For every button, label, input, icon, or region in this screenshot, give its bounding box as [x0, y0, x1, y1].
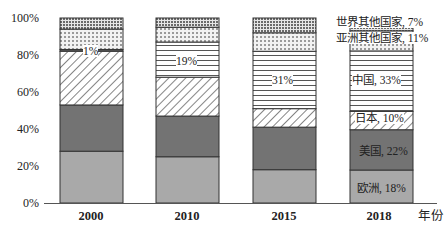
bar-2010 [156, 18, 219, 203]
label-2018-europe: 欧洲, 18% [357, 182, 406, 194]
segment-2010 [156, 116, 219, 157]
label-2000-china: 1% [83, 45, 98, 57]
segment-2015 [253, 18, 316, 33]
label-2015-china: 31% [272, 74, 293, 86]
stacked-bar-chart: 100% 80% 60% 40% 20% 0% 1% 19% 31% 世界其他国… [0, 0, 445, 235]
segment-2015 [253, 170, 316, 203]
x-tick-2000: 2000 [61, 210, 121, 223]
label-2018-us: 美国, 22% [359, 145, 408, 157]
segment-2010 [156, 18, 219, 27]
segment-2000 [60, 18, 123, 29]
segment-2000 [60, 105, 123, 151]
label-2018-china: 中国, 33% [352, 74, 401, 86]
x-axis-line [44, 203, 437, 204]
label-2010-china: 19% [176, 55, 197, 67]
x-tick-2010: 2010 [157, 210, 217, 223]
segment-2010 [156, 157, 219, 203]
segment-2010 [156, 77, 219, 116]
segment-2015 [253, 33, 316, 52]
label-2018-japan: 日本, 10% [355, 112, 404, 124]
bar-2018 [350, 18, 413, 203]
segment-2000 [60, 151, 123, 203]
segment-2015 [253, 127, 316, 170]
x-axis-label: 年份 [418, 210, 444, 223]
label-2018-world-other: 世界其他国家, 7% [336, 16, 423, 28]
x-tick-2015: 2015 [254, 210, 314, 223]
segment-2000 [60, 51, 123, 105]
x-tick-2018: 2018 [349, 210, 409, 223]
bar-2015 [253, 18, 316, 203]
label-2018-asia-other: 亚洲其他国家, 11% [336, 32, 428, 44]
segment-2015 [253, 109, 316, 128]
segment-2010 [156, 27, 219, 42]
